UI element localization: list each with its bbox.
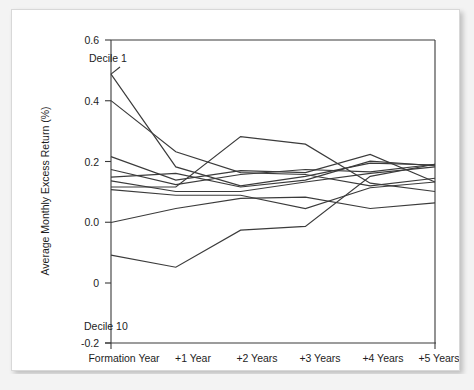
x-tick-label-plus3-years: +3 Years: [299, 352, 340, 364]
y-tick-label-3: 0.0: [84, 216, 99, 228]
series-line-decile-10: [111, 164, 435, 267]
figure-root: 0.6 0.4 0.2 0.0 0 -0.2 Formation Year +1…: [0, 0, 474, 390]
series-line-decile-1: [111, 74, 435, 186]
y-axis-title: Average Monthly Excess Return (%): [39, 106, 51, 275]
y-tick-marks: [105, 40, 111, 343]
x-tick-label-plus2-years: +2 Years: [236, 352, 277, 364]
y-tick-label-4: 0: [93, 277, 99, 289]
y-tick-label-1: 0.4: [84, 95, 99, 107]
x-tick-label-plus1-year: +1 Year: [175, 352, 211, 364]
x-tick-label-plus5-years: +5 Years: [418, 352, 459, 364]
x-tick-label-plus4-years: +4 Years: [362, 352, 403, 364]
line-chart: 0.6 0.4 0.2 0.0 0 -0.2 Formation Year +1…: [12, 10, 459, 370]
leader-line-decile-1: [111, 67, 120, 74]
series-line-decile-8: [111, 182, 435, 209]
page-bottom-band: [0, 374, 474, 390]
x-tick-marks: [111, 343, 435, 349]
data-series-group: [111, 67, 435, 267]
annotation-decile-1: Decile 1: [89, 52, 127, 64]
y-tick-label-0: 0.6: [84, 34, 99, 46]
annotation-decile-10: Decile 10: [84, 320, 128, 332]
y-tick-label-5: -0.2: [81, 337, 99, 349]
series-line-decile-6: [111, 167, 435, 192]
x-tick-labels: Formation Year +1 Year +2 Years +3 Years…: [88, 352, 459, 364]
x-tick-label-formation-year: Formation Year: [88, 352, 160, 364]
chart-card: 0.6 0.4 0.2 0.0 0 -0.2 Formation Year +1…: [11, 9, 460, 371]
y-tick-label-2: 0.2: [84, 156, 99, 168]
series-line-decile-9: [111, 197, 435, 222]
series-line-decile-3: [111, 154, 435, 182]
chart-axes: [105, 40, 436, 343]
y-tick-labels: 0.6 0.4 0.2 0.0 0 -0.2: [81, 34, 99, 349]
